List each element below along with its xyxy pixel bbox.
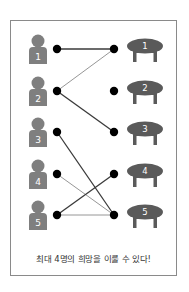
table-node-dot <box>110 211 118 219</box>
person-number: 3 <box>35 135 41 145</box>
table-number: 5 <box>142 207 147 217</box>
table-node-dot <box>110 128 118 136</box>
person-node-dot <box>53 87 61 95</box>
person-icon <box>32 160 45 173</box>
edge-person-2-table-3 <box>57 91 114 132</box>
table-number: 1 <box>142 41 147 51</box>
caption-text: 최대 4명의 희망을 이룰 수 있다! <box>10 252 177 264</box>
table-4: 4 <box>110 164 163 188</box>
edges <box>57 49 114 215</box>
person-3: 3 <box>29 118 61 148</box>
table-number: 3 <box>142 124 147 134</box>
table-5: 5 <box>110 205 163 229</box>
bipartite-matching-diagram: 12345 12345 <box>0 0 189 292</box>
table-number: 2 <box>142 83 147 93</box>
person-node-dot <box>53 211 61 219</box>
table-2: 2 <box>110 81 163 105</box>
person-4: 4 <box>29 160 61 190</box>
table-number: 4 <box>142 166 147 176</box>
person-number: 1 <box>35 52 41 62</box>
person-2: 2 <box>29 77 61 107</box>
table-3: 3 <box>110 122 163 146</box>
person-icon <box>32 201 45 214</box>
people-column: 12345 <box>29 35 61 231</box>
edge-person-3-table-5 <box>57 132 114 215</box>
person-node-dot <box>53 45 61 53</box>
table-node-dot <box>110 45 118 53</box>
table-node-dot <box>110 87 118 95</box>
person-1: 1 <box>29 35 61 65</box>
person-number: 2 <box>35 94 41 104</box>
person-icon <box>32 35 45 48</box>
person-node-dot <box>53 170 61 178</box>
edge-person-2-table-1 <box>57 49 114 91</box>
tables-column: 12345 <box>110 39 163 229</box>
person-number: 5 <box>35 218 41 228</box>
person-node-dot <box>53 128 61 136</box>
person-icon <box>32 118 45 131</box>
table-node-dot <box>110 170 118 178</box>
table-1: 1 <box>110 39 163 63</box>
person-number: 4 <box>35 177 41 187</box>
person-icon <box>32 77 45 90</box>
person-5: 5 <box>29 201 61 231</box>
